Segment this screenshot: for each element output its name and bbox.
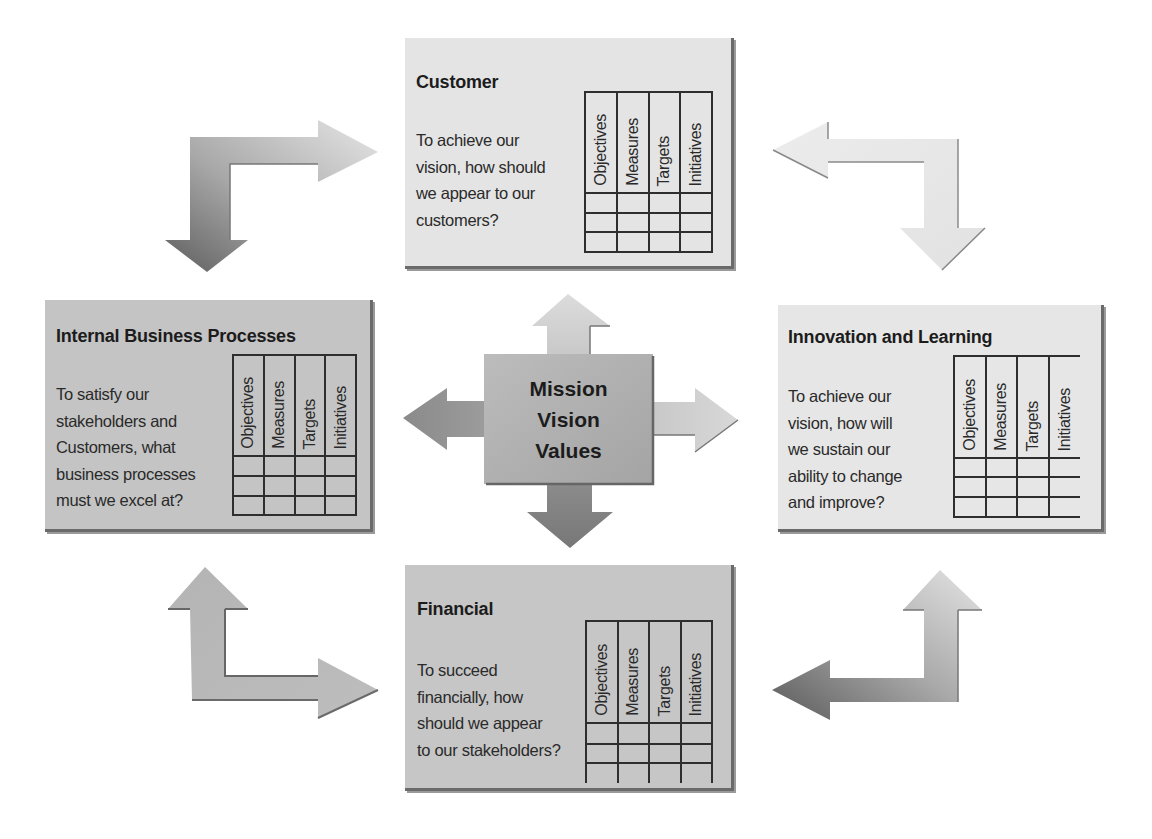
perspective-title: Customer (416, 72, 498, 93)
perspective-question: To succeed financially, how should we ap… (417, 657, 561, 763)
perspective-title: Internal Business Processes (56, 326, 296, 347)
column-header-measures: Measures (617, 92, 649, 193)
table-row (233, 476, 356, 496)
center-line-values: Values (535, 435, 602, 466)
column-header-initiatives: Initiatives (1049, 356, 1081, 458)
table-row (585, 213, 712, 232)
table-row (954, 458, 1080, 477)
elbow-arrow-top-right (773, 122, 985, 270)
perspective-title: Innovation and Learning (788, 327, 992, 348)
perspective-question: To achieve our vision, how should we app… (416, 127, 545, 233)
table-row (233, 456, 356, 476)
scorecard-table: Objectives Measures Targets Initiatives (584, 91, 713, 253)
center-arrow-down (527, 482, 613, 548)
column-header-targets: Targets (649, 92, 681, 193)
perspective-box-financial: Financial To succeed financially, how sh… (405, 565, 734, 791)
scorecard-table: Objectives Measures Targets Initiatives (232, 354, 357, 516)
perspective-box-customer: Customer To achieve our vision, how shou… (405, 38, 734, 269)
center-arrow-up (532, 294, 610, 356)
table-row (586, 763, 712, 783)
center-line-vision: Vision (537, 404, 600, 435)
column-header-targets: Targets (295, 355, 326, 456)
table-row (233, 496, 356, 515)
elbow-arrow-bottom-right (772, 570, 982, 720)
column-header-objectives: Objectives (585, 92, 617, 193)
table-row (954, 497, 1080, 517)
table-row (585, 232, 712, 252)
table-row (954, 477, 1080, 497)
column-header-initiatives: Initiatives (325, 355, 356, 456)
perspective-title: Financial (417, 599, 493, 620)
column-header-targets: Targets (1017, 356, 1049, 458)
column-header-initiatives: Initiatives (681, 621, 713, 723)
column-header-objectives: Objectives (586, 621, 618, 723)
column-header-measures: Measures (264, 355, 295, 456)
perspective-box-internal-business-processes: Internal Business Processes To satisfy o… (45, 300, 373, 532)
center-line-mission: Mission (529, 373, 607, 404)
scorecard-table: Objectives Measures Targets Initiatives (953, 355, 1080, 518)
column-header-initiatives: Initiatives (680, 92, 712, 193)
perspective-question: To achieve our vision, how will we susta… (788, 383, 902, 516)
table-row (586, 723, 712, 744)
column-header-measures: Measures (618, 621, 650, 723)
table-row (585, 193, 712, 213)
table-row (586, 744, 712, 763)
center-mission-vision-values: Mission Vision Values (484, 354, 653, 484)
column-header-objectives: Objectives (954, 356, 986, 458)
center-arrow-left (403, 388, 486, 450)
elbow-arrow-top-left (165, 120, 378, 272)
elbow-arrow-bottom-left (168, 567, 378, 718)
perspective-question: To satisfy our stakeholders and Customer… (56, 381, 196, 514)
column-header-measures: Measures (986, 356, 1018, 458)
column-header-objectives: Objectives (233, 355, 264, 456)
column-header-targets: Targets (649, 621, 681, 723)
scorecard-table: Objectives Measures Targets Initiatives (585, 620, 713, 783)
perspective-box-innovation-and-learning: Innovation and Learning To achieve our v… (778, 305, 1104, 532)
center-arrow-right (651, 388, 738, 452)
